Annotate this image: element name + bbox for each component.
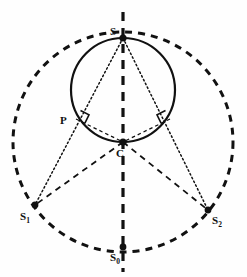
point-label-s2: S2 [212,215,222,226]
point-label-c: C [116,148,124,159]
geometry-figure: S C P S1 S2 S0 [0,0,247,277]
segment-line-pmirror-c [123,119,170,142]
point-marker-s [119,34,126,41]
point-label-p: P [60,115,67,126]
radius-line-c-s1 [35,142,123,205]
point-label-s: S [110,26,116,37]
chord-line-s-s2 [123,38,208,210]
point-label-s0: S0 [110,252,120,263]
radius-line-c-s2 [123,142,208,210]
point-marker-c [119,138,126,145]
point-label-s1-subscript: 1 [26,216,30,225]
point-marker-s1 [32,202,39,209]
geometry-canvas [0,0,247,277]
point-label-s1: S1 [20,211,30,222]
point-label-s0-subscript: 0 [116,257,120,266]
point-marker-s2 [205,207,212,214]
segment-line-p-c [76,119,123,142]
point-marker-s0 [120,244,127,251]
point-label-s2-subscript: 2 [218,220,222,229]
